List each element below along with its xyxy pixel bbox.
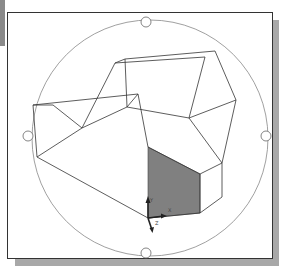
model-edge	[189, 118, 222, 163]
model-edge	[82, 63, 115, 128]
model-edge	[37, 157, 148, 218]
wireframe-model	[33, 51, 236, 218]
ucs-z-label: Z	[155, 220, 159, 226]
orbit-circle[interactable]	[32, 20, 268, 256]
shaded-face	[148, 147, 200, 218]
model-edge	[127, 94, 138, 107]
orbit-grip-left[interactable]	[23, 131, 33, 141]
model-edge	[127, 107, 189, 118]
model-edge	[215, 51, 233, 93]
model-edge	[37, 128, 82, 157]
model-edge	[189, 57, 205, 118]
orbit-grip-right[interactable]	[261, 131, 271, 141]
model-edge	[115, 57, 205, 63]
model-edge	[125, 59, 127, 107]
ucs-x-label: X	[168, 207, 172, 213]
orbit-grip-top[interactable]	[141, 17, 151, 27]
model-edge	[200, 163, 222, 174]
model-edge	[33, 94, 138, 105]
model-edge	[200, 197, 222, 213]
model-edge	[233, 93, 236, 100]
model-edge	[222, 100, 236, 163]
orbit-grip-bottom[interactable]	[141, 248, 151, 258]
model-edge	[125, 51, 215, 59]
model-edge	[138, 94, 148, 147]
model-edge	[53, 105, 82, 128]
model-scene[interactable]: Y X Z	[0, 0, 305, 278]
model-edge	[82, 107, 127, 128]
orbit-arcball[interactable]	[23, 17, 271, 258]
model-edge	[189, 100, 236, 118]
